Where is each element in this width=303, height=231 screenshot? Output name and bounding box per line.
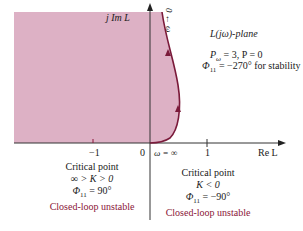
left-block-k-range: ∞ > K > 0: [40, 173, 144, 185]
tick-minus-one-label: −1: [89, 147, 100, 159]
right-block-title: Critical point: [156, 167, 260, 179]
phi-symbol: Φ: [202, 60, 210, 71]
plane-title: L(jω)-plane: [210, 28, 258, 40]
right-block-k-range: K < 0: [156, 179, 260, 191]
stability-condition: Φ11 = −270° for stability: [202, 60, 301, 76]
left-block-title: Critical point: [40, 161, 144, 173]
left-phi-value: = 90°: [87, 185, 112, 196]
left-block-verdict: Closed-loop unstable: [40, 201, 144, 213]
left-critical-block: Critical point ∞ > K > 0 Φ11 = 90° Close…: [40, 161, 144, 213]
plane-title-text: L(jω)-plane: [210, 28, 258, 39]
origin-label: 0: [140, 147, 145, 159]
left-block-phi: Φ11 = 90°: [40, 185, 144, 201]
p-values: = 3, P = 0: [221, 49, 262, 60]
left-phi-subscript: 11: [80, 191, 87, 199]
omega-zero-label: 0 ← ω: [163, 8, 175, 32]
right-block-verdict: Closed-loop unstable: [156, 207, 260, 219]
right-block-phi: Φ11 = −90°: [156, 191, 260, 207]
real-axis-arrow-icon: [278, 140, 286, 146]
right-critical-block: Critical point K < 0 Φ11 = −90° Closed-l…: [156, 167, 260, 219]
imag-axis-label: j Im L: [106, 12, 130, 24]
phi-value: = −270° for stability: [216, 60, 300, 71]
left-phi-symbol: Φ: [72, 185, 80, 196]
right-phi-value: = −90°: [200, 191, 230, 202]
real-axis-label: Re L: [258, 147, 278, 159]
imag-axis-arrow-icon: [147, 3, 153, 11]
real-axis-label-text: Re L: [258, 147, 278, 158]
shaded-region: [14, 12, 180, 143]
tick-one-label: 1: [205, 147, 210, 159]
omega-infinity-label: ω = ∞: [154, 147, 177, 159]
